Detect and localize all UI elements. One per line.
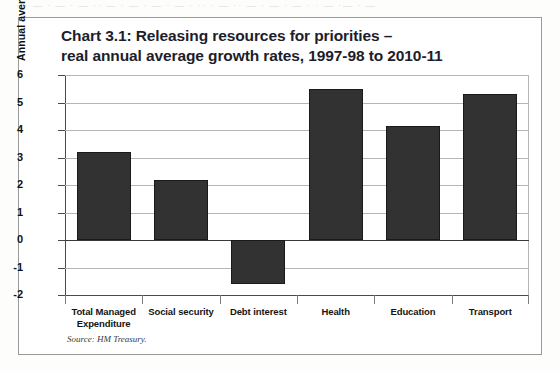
category-axis: Total ManagedExpenditureSocial securityD… xyxy=(65,295,529,304)
bar-health xyxy=(309,89,363,240)
y-axis-tick-1 xyxy=(58,213,65,214)
category-tick-1 xyxy=(142,295,143,304)
category-tick-0 xyxy=(65,295,66,304)
source-note: Source: HM Treasury. xyxy=(67,334,147,344)
category-label-line: Transport xyxy=(469,306,512,317)
category-label-line: Health xyxy=(321,306,349,317)
gridline-6 xyxy=(65,75,529,76)
y-axis-title: Annual average real growth (per cent) xyxy=(15,0,27,61)
category-label-debt-interest: Debt interest xyxy=(220,306,297,318)
y-axis-tick-3 xyxy=(58,158,65,159)
scan-artifact-text: · · — · — · — ·· — · — · — · — · ·· · — … xyxy=(0,0,560,14)
category-tick-4 xyxy=(374,295,375,304)
gridline--1 xyxy=(65,268,529,269)
category-label-total-managed-expenditure: Total ManagedExpenditure xyxy=(65,306,142,330)
chart-title-line-1: Chart 3.1: Releasing resources for prior… xyxy=(61,26,511,46)
gridline-1 xyxy=(65,213,529,214)
category-label-transport: Transport xyxy=(452,306,529,318)
y-axis-label-6: 6 xyxy=(1,68,23,80)
gridline-2 xyxy=(65,185,529,186)
category-tick-5 xyxy=(452,295,453,304)
y-axis-label-0: 0 xyxy=(1,233,23,245)
category-label-social-security: Social security xyxy=(142,306,219,318)
y-axis-label-1: 1 xyxy=(1,206,23,218)
y-axis-tick--2 xyxy=(58,295,65,296)
category-tick-2 xyxy=(220,295,221,304)
bar-social-security xyxy=(154,180,208,241)
y-axis-label-2: 2 xyxy=(1,178,23,190)
category-label-line: Total Managed xyxy=(71,306,136,317)
y-axis-tick-2 xyxy=(58,185,65,186)
y-axis-label-4: 4 xyxy=(1,123,23,135)
y-axis-tick-4 xyxy=(58,130,65,131)
category-label-health: Health xyxy=(297,306,374,318)
category-tick-6 xyxy=(528,295,529,304)
y-axis-label-5: 5 xyxy=(1,96,23,108)
y-axis-label--1: -1 xyxy=(1,261,23,273)
bar-transport xyxy=(463,94,517,240)
category-label-education: Education xyxy=(374,306,451,318)
y-axis-tick--1 xyxy=(58,268,65,269)
gridline-3 xyxy=(65,158,529,159)
y-axis-label-3: 3 xyxy=(1,151,23,163)
gridline-0 xyxy=(65,240,529,241)
category-tick-3 xyxy=(297,295,298,304)
bar-education xyxy=(386,126,440,240)
y-axis-tick-0 xyxy=(58,240,65,241)
chart-figure-frame: Chart 3.1: Releasing resources for prior… xyxy=(18,17,542,355)
category-label-line: Expenditure xyxy=(77,318,131,329)
category-label-line: Social security xyxy=(148,306,214,317)
category-label-line: Education xyxy=(390,306,435,317)
gridline-4 xyxy=(65,130,529,131)
y-axis-tick-6 xyxy=(58,75,65,76)
bar-debt-interest xyxy=(231,240,285,284)
y-axis-tick-5 xyxy=(58,103,65,104)
category-label-line: Debt interest xyxy=(230,306,287,317)
plot-area: -2-10123456 xyxy=(65,75,529,295)
y-axis-label--2: -2 xyxy=(1,288,23,300)
bar-total-managed-expenditure xyxy=(77,152,131,240)
gridline-5 xyxy=(65,103,529,104)
chart-title-line-2: real annual average growth rates, 1997-9… xyxy=(61,46,511,66)
chart-title: Chart 3.1: Releasing resources for prior… xyxy=(61,26,511,66)
